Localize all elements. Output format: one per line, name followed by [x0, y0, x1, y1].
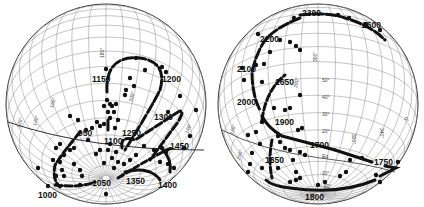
observation-dot [374, 173, 378, 177]
observation-dot [262, 62, 266, 66]
observation-dot [104, 192, 108, 196]
observation-dot [95, 120, 99, 124]
observation-dot [102, 122, 106, 126]
observation-dot [360, 156, 364, 160]
observation-dot [76, 118, 80, 122]
observation-dot [246, 170, 250, 174]
observation-dot [54, 174, 58, 178]
year-label: 1800 [305, 192, 324, 202]
observation-dot [298, 48, 302, 52]
observation-dot [294, 178, 298, 182]
observation-dot [166, 162, 170, 166]
observation-dot [172, 166, 176, 170]
observation-dot [122, 162, 126, 166]
observation-dot [142, 144, 146, 148]
right-grid-label: 300° [312, 52, 318, 62]
year-label: 2200 [260, 34, 279, 44]
observation-dot [268, 50, 272, 54]
observation-dot [296, 128, 300, 132]
observation-dot [134, 153, 138, 157]
right-grid-label: 40° [322, 94, 330, 100]
observation-dot [86, 138, 90, 142]
observation-dot [288, 180, 292, 184]
observation-dot [298, 176, 302, 180]
year-label: 1850 [265, 155, 284, 165]
observation-dot [288, 148, 292, 152]
observation-dot [36, 166, 40, 170]
observation-dot [152, 148, 156, 152]
left-grid-label: 180° [99, 48, 105, 58]
observation-dot [110, 104, 114, 108]
observation-dot [303, 153, 307, 157]
year-label: 1900 [275, 117, 294, 127]
year-label: 2000 [237, 97, 256, 107]
observation-dot [288, 40, 292, 44]
observation-dot [116, 160, 120, 164]
year-label: 1350 [126, 176, 145, 186]
observation-dot [114, 102, 118, 106]
observation-dot [158, 160, 162, 164]
year-label: 2600 [362, 20, 381, 30]
observation-dot [113, 126, 117, 130]
observation-dot [102, 161, 106, 165]
observation-dot [123, 93, 127, 97]
year-label: 1750 [374, 157, 393, 167]
year-label: 1400 [158, 180, 177, 190]
year-label: 1100 [104, 136, 123, 146]
observation-dot [246, 133, 250, 137]
right-grid-label: 30° [322, 111, 330, 117]
year-label: 1250 [122, 128, 141, 138]
year-label: 1050 [92, 178, 111, 188]
year-label: 1300 [154, 112, 173, 122]
observation-dot [116, 118, 120, 122]
observation-dot [194, 108, 198, 112]
observation-dot [68, 148, 72, 152]
observation-dot [336, 13, 340, 17]
year-label: 1650 [275, 77, 294, 87]
observation-dot [98, 124, 102, 128]
year-label: 1200 [162, 74, 181, 84]
year-label: 1150 [92, 74, 111, 84]
year-label: 950 [78, 128, 92, 138]
observation-dot [288, 106, 292, 110]
observation-dot [134, 56, 138, 60]
observation-dot [94, 152, 98, 156]
observation-dot [105, 98, 109, 102]
observation-dot [260, 80, 264, 84]
observation-dot [272, 106, 276, 110]
observation-dot [291, 158, 295, 162]
observation-dot [160, 65, 164, 69]
observation-dot [242, 78, 246, 82]
observation-dot [112, 110, 116, 114]
observation-dot [258, 142, 262, 146]
observation-dot [348, 158, 352, 162]
observation-dot [278, 140, 282, 144]
observation-dot [102, 104, 106, 108]
observation-dot [347, 16, 351, 20]
observation-dot [294, 170, 298, 174]
observation-dot [60, 168, 64, 172]
observation-dot [378, 180, 382, 184]
figure-canvas: 180° 200° 160° 140° 120° 140° 1150 1200 … [0, 0, 424, 207]
right-grid-label: -20° [322, 183, 331, 189]
observation-dot [300, 126, 304, 130]
observation-dot [250, 151, 254, 155]
observation-dot [98, 148, 102, 152]
observation-dot [396, 160, 400, 164]
observation-dot [283, 146, 287, 150]
right-grid-label: 50° [322, 77, 330, 83]
left-globe: 180° 200° 160° 140° 120° 140° 1150 1200 … [6, 4, 206, 204]
observation-dot [110, 156, 114, 160]
observation-dot [114, 150, 118, 154]
observation-dot [160, 146, 164, 150]
observation-dot [276, 134, 280, 138]
observation-dot [298, 93, 302, 97]
year-label: 1000 [38, 190, 57, 200]
observation-dot [62, 174, 66, 178]
observation-dot [292, 16, 296, 20]
right-grid-label: 320° [351, 134, 357, 144]
observation-dot [276, 166, 280, 170]
observation-dot [58, 142, 62, 146]
observation-dot [58, 160, 62, 164]
observation-dot [51, 158, 55, 162]
